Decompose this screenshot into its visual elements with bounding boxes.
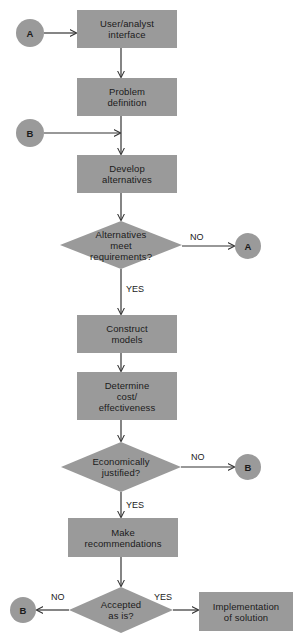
connector-circle-connector-a-left bbox=[16, 19, 44, 47]
process-box-develop-alternatives bbox=[77, 155, 177, 193]
process-box-problem-definition bbox=[77, 78, 177, 116]
process-box-determine-cost-effectiveness bbox=[77, 372, 177, 420]
connector-circle-connector-a-right bbox=[235, 233, 261, 259]
process-box-make-recommendations bbox=[68, 518, 178, 557]
process-box-construct-models bbox=[77, 315, 177, 353]
connector-circle-connector-b-left bbox=[16, 119, 44, 147]
process-box-user-analyst-interface bbox=[77, 10, 177, 48]
decision-diamond-alternatives-meet-requirements bbox=[60, 221, 182, 269]
decision-diamond-economically-justified bbox=[61, 442, 181, 492]
decision-diamond-accepted-as-is bbox=[69, 587, 173, 633]
flowchart-graphics bbox=[0, 0, 295, 639]
connector-circle-connector-b-right bbox=[235, 454, 261, 480]
connector-circle-connector-b-bottom-left bbox=[10, 597, 36, 623]
process-box-implementation-of-solution bbox=[199, 592, 293, 631]
shapes-layer bbox=[10, 10, 293, 633]
flowchart-canvas: User/analyst interfaceProblem definition… bbox=[0, 0, 295, 639]
